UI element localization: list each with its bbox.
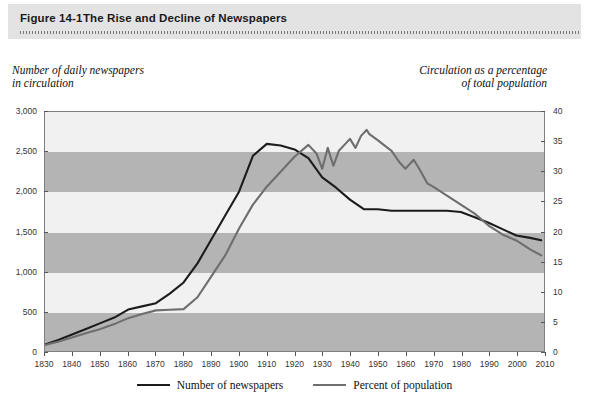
x-axis-tick-mark (183, 352, 184, 356)
plot-area (44, 111, 545, 352)
y-axis-tick-label: 2,500 (0, 146, 37, 156)
y2-axis-tick-label: 0 (553, 347, 558, 357)
y2-axis-tick-mark (541, 292, 545, 293)
legend-label: Number of newspapers (177, 379, 284, 391)
y-axis-tick-mark (44, 151, 48, 152)
x-axis-tick-label: 1950 (369, 359, 388, 369)
x-axis-tick-mark (350, 352, 351, 356)
x-axis-tick-mark (517, 352, 518, 356)
y-axis-tick-label: 500 (0, 307, 37, 317)
legend-line-swatch (137, 384, 170, 387)
y2-axis-tick-mark (541, 262, 545, 263)
right-axis-caption-line2: of total population (419, 77, 547, 90)
y-axis-tick-label: 1,000 (0, 267, 37, 277)
x-axis-tick-mark (434, 352, 435, 356)
legend-item: Percent of population (313, 379, 452, 391)
x-axis-tick-mark (211, 352, 212, 356)
x-axis-tick-label: 1830 (35, 359, 54, 369)
y-axis-tick-mark (44, 312, 48, 313)
header-dotted-divider (20, 31, 581, 34)
y-axis-tick-mark (44, 272, 48, 273)
chart-legend: Number of newspapersPercent of populatio… (0, 379, 589, 391)
y2-axis-tick-label: 25 (553, 196, 562, 206)
y2-axis-tick-label: 40 (553, 106, 562, 116)
x-axis-tick-label: 1960 (396, 359, 415, 369)
x-axis-tick-label: 1850 (90, 359, 109, 369)
x-axis-tick-mark (267, 352, 268, 356)
left-axis-caption: Number of daily newspapers in circulatio… (12, 64, 144, 90)
x-axis-tick-mark (295, 352, 296, 356)
x-axis-tick-mark (489, 352, 490, 356)
y2-axis-tick-label: 35 (553, 136, 562, 146)
x-axis-tick-mark (545, 352, 546, 356)
y-axis-tick-mark (44, 111, 48, 112)
x-axis-tick-mark (378, 352, 379, 356)
figure-title: The Rise and Decline of Newspapers (83, 12, 287, 24)
y2-axis-tick-mark (541, 232, 545, 233)
right-axis-caption: Circulation as a percentage of total pop… (419, 64, 547, 90)
y2-axis-tick-mark (541, 111, 545, 112)
line-percent-of-population (45, 130, 541, 345)
x-axis-tick-mark (406, 352, 407, 356)
x-axis-tick-label: 1930 (313, 359, 332, 369)
y2-axis-tick-mark (541, 171, 545, 172)
figure-number: Figure 14-1 (20, 12, 82, 24)
x-axis-tick-mark (155, 352, 156, 356)
x-axis-tick-label: 1920 (285, 359, 304, 369)
left-axis-caption-line1: Number of daily newspapers (12, 64, 144, 77)
y-axis-tick-label: 2,000 (0, 186, 37, 196)
x-axis-tick-mark (322, 352, 323, 356)
y-axis-tick-label: 0 (0, 347, 37, 357)
y-axis-tick-mark (44, 232, 48, 233)
x-axis-tick-label: 2000 (508, 359, 527, 369)
x-axis-tick-mark (72, 352, 73, 356)
x-axis-tick-label: 1870 (146, 359, 165, 369)
figure-header-band: Figure 14-1 The Rise and Decline of News… (8, 4, 581, 39)
x-axis-tick-mark (128, 352, 129, 356)
x-axis-tick-label: 1940 (341, 359, 360, 369)
y2-axis-tick-mark (541, 201, 545, 202)
x-axis-tick-label: 1910 (257, 359, 276, 369)
chart-lines (45, 112, 544, 351)
left-axis-caption-line2: in circulation (12, 77, 144, 90)
y2-axis-tick-label: 30 (553, 166, 562, 176)
x-axis-tick-label: 1840 (62, 359, 81, 369)
y-axis-tick-label: 3,000 (0, 106, 37, 116)
right-axis-caption-line1: Circulation as a percentage (419, 64, 547, 77)
x-axis-tick-label: 1880 (174, 359, 193, 369)
y2-axis-tick-mark (541, 322, 545, 323)
legend-line-swatch (313, 384, 346, 387)
x-axis-tick-label: 1990 (480, 359, 499, 369)
y2-axis-tick-label: 20 (553, 227, 562, 237)
line-number-of-newspapers (45, 144, 541, 345)
x-axis-tick-mark (462, 352, 463, 356)
x-axis-tick-label: 1890 (202, 359, 221, 369)
x-axis-tick-label: 1980 (452, 359, 471, 369)
y2-axis-tick-label: 5 (553, 317, 558, 327)
y-axis-tick-label: 1,500 (0, 227, 37, 237)
y-axis-tick-mark (44, 191, 48, 192)
x-axis-tick-mark (44, 352, 45, 356)
legend-label: Percent of population (353, 379, 452, 391)
y2-axis-tick-label: 10 (553, 287, 562, 297)
x-axis-tick-mark (239, 352, 240, 356)
legend-item: Number of newspapers (137, 379, 284, 391)
x-axis-tick-mark (100, 352, 101, 356)
y2-axis-tick-mark (541, 141, 545, 142)
y2-axis-tick-label: 15 (553, 257, 562, 267)
x-axis-tick-label: 1970 (424, 359, 443, 369)
x-axis-tick-label: 1860 (118, 359, 137, 369)
x-axis-tick-label: 2010 (536, 359, 555, 369)
x-axis-tick-label: 1900 (229, 359, 248, 369)
